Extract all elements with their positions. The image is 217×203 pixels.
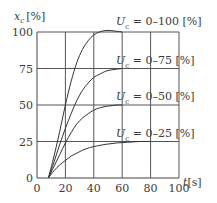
y-tick-label: 25 — [19, 136, 33, 149]
series-label-2: Uc = 0–50 [%] — [116, 90, 194, 106]
x-tick-label: 0 — [34, 182, 41, 195]
chart: 0204060801000255075100 xc[%] t[s] Uc = 0… — [0, 0, 217, 203]
x-tick-label: 60 — [115, 182, 129, 195]
x-tick-label: 20 — [58, 182, 72, 195]
y-axis-label: xc[%] — [14, 10, 45, 25]
x-tick-label: 80 — [144, 182, 158, 195]
series-label-3: Uc = 0–25 [%] — [116, 127, 194, 143]
tick-labels: 0204060801000255075100 — [12, 26, 190, 195]
x-tick-label: 40 — [87, 182, 101, 195]
series-label-0: Uc = 0–100 [%] — [116, 15, 201, 31]
y-tick-label: 50 — [19, 99, 33, 112]
x-axis-label: t[s] — [183, 176, 202, 189]
series-line-1 — [48, 69, 122, 179]
y-tick-label: 75 — [19, 63, 33, 76]
y-tick-label: 0 — [26, 172, 33, 185]
series-labels: Uc = 0–100 [%]Uc = 0–75 [%]Uc = 0–50 [%]… — [116, 15, 201, 143]
series-label-1: Uc = 0–75 [%] — [116, 54, 194, 70]
y-tick-label: 100 — [12, 26, 33, 39]
